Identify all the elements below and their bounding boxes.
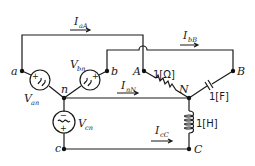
sine-icon — [58, 120, 70, 122]
node-A — [142, 69, 146, 73]
label-vbn: V bn — [70, 58, 85, 73]
svg-text:an: an — [31, 99, 39, 107]
node-N — [187, 96, 191, 100]
svg-text:cn: cn — [85, 124, 93, 132]
label-van: V an — [24, 92, 39, 107]
wire-cap-to-N — [189, 86, 207, 98]
vcn-source: − + — [53, 111, 75, 133]
node-n — [62, 96, 66, 100]
minus-sign: − — [60, 111, 67, 120]
capacitor-value: 1[F] — [209, 91, 229, 102]
current-icC: I cC — [151, 124, 172, 143]
sine-icon — [38, 78, 45, 86]
label-b: b — [111, 65, 118, 78]
circuit-diagram: + + − + a b n c A B N C V an V bn V cn I — [0, 0, 255, 166]
svg-text:bB: bB — [188, 36, 197, 44]
label-B: B — [236, 65, 245, 78]
label-n: n — [61, 83, 68, 96]
label-A: A — [132, 65, 141, 78]
label-N: N — [178, 83, 189, 96]
node-b — [105, 69, 109, 73]
current-inN: I nN — [117, 79, 138, 95]
label-vcn: V cn — [78, 117, 93, 132]
van-source: + — [30, 70, 50, 90]
arrow-right-icon — [151, 139, 172, 143]
current-iaA: I aA — [70, 15, 90, 32]
wire-B-to-cap — [212, 71, 233, 84]
plus-sign: + — [32, 72, 39, 81]
inductor — [185, 111, 194, 133]
label-C: C — [194, 143, 203, 156]
plus-sign: + — [92, 72, 99, 81]
label-a: a — [11, 65, 18, 78]
sine-icon — [84, 78, 91, 86]
resistor-value: 1[Ω] — [153, 69, 175, 80]
current-ibB: I bB — [180, 29, 198, 47]
wire-b-to-B — [107, 46, 233, 71]
node-C — [187, 147, 191, 151]
node-c — [62, 147, 66, 151]
svg-text:bn: bn — [77, 65, 85, 73]
label-c: c — [55, 142, 61, 155]
plus-sign: + — [60, 124, 67, 133]
vbn-source: + — [80, 70, 100, 90]
inductor-value: 1[H] — [196, 118, 218, 129]
node-a — [20, 69, 24, 73]
capacitor-plate-2 — [205, 82, 210, 90]
svg-text:cC: cC — [160, 131, 169, 139]
node-B — [231, 69, 235, 73]
